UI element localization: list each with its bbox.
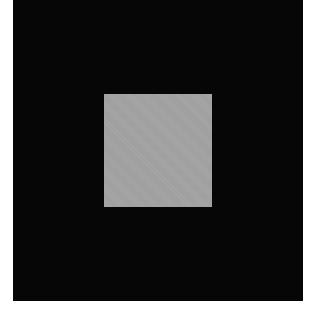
black-square-background bbox=[13, 0, 303, 301]
gray-center-square bbox=[104, 94, 212, 207]
